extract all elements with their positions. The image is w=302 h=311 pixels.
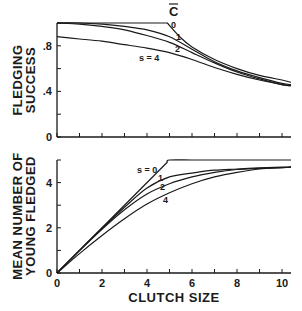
x-axis-title: CLUTCH SIZE (128, 290, 219, 305)
series-line-s0 (57, 160, 291, 273)
x-tick-label: 2 (99, 277, 105, 289)
y-tick-label: .8 (43, 40, 52, 52)
young-fledged-panel: 0240246810MEAN NUMBER OFYOUNG FLEDGEDCLU… (10, 152, 291, 305)
series-label: s = 4 (139, 53, 159, 63)
y-tick-label: 0 (46, 131, 52, 143)
figure: 0.4.8FLEDGINGSUCCESS012s = 4C 0240246810… (0, 0, 302, 311)
series-label: 2 (175, 44, 180, 54)
series-line-s0 (57, 23, 291, 82)
y-tick-label: 0 (46, 267, 52, 279)
series-label: 0 (171, 20, 176, 30)
x-tick-label: 4 (144, 277, 151, 289)
fledging-success-panel: 0.4.8FLEDGINGSUCCESS012s = 4C (10, 4, 291, 143)
x-tick-label: 8 (234, 277, 240, 289)
x-tick-label: 0 (54, 277, 60, 289)
y-tick-label: 2 (46, 222, 52, 234)
series-label: 4 (163, 195, 168, 205)
y-tick-label: 4 (46, 177, 53, 189)
x-tick-label: 6 (189, 277, 195, 289)
series-label: 2 (160, 182, 165, 192)
y-tick-label: .4 (43, 85, 53, 97)
series-label: s = 0 (137, 165, 157, 175)
y-axis-title: FLEDGINGSUCCESS (10, 44, 38, 115)
series-line-s2 (57, 167, 291, 273)
c-bar-annotation: C (169, 4, 179, 19)
series-line-s4 (57, 167, 291, 273)
y-axis-title: MEAN NUMBER OFYOUNG FLEDGED (10, 152, 38, 280)
x-tick-label: 10 (276, 277, 288, 289)
series-label: 1 (176, 32, 181, 42)
